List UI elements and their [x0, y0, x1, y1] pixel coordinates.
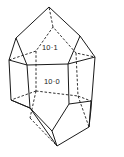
face-label-prism: 10·0: [44, 77, 60, 86]
face-label-pyramid: 10·1: [42, 43, 58, 52]
crystal-drawing: [0, 0, 124, 157]
